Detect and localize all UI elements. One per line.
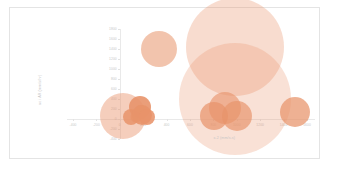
y-tick-label: 800 bbox=[103, 77, 117, 81]
y-tick-mark bbox=[118, 139, 120, 140]
y-tick-mark bbox=[118, 89, 120, 90]
x-tick-mark bbox=[73, 119, 74, 121]
data-point-bubble bbox=[141, 31, 177, 67]
scatter-plot-area: 180016001400120010008006004002000-200-40… bbox=[0, 0, 338, 169]
y-tick-label: 1200 bbox=[103, 57, 117, 61]
x-tick-label: -400 bbox=[64, 123, 82, 127]
y-tick-label: 1600 bbox=[103, 37, 117, 41]
y-tick-mark bbox=[118, 59, 120, 60]
y-tick-label: 600 bbox=[103, 87, 117, 91]
chart-screenshot: 180016001400120010008006004002000-200-40… bbox=[0, 0, 338, 169]
y-tick-mark bbox=[118, 39, 120, 40]
y-tick-mark bbox=[118, 79, 120, 80]
x-tick-label: 400 bbox=[158, 123, 176, 127]
y-axis-title: ac i AR (mm/s/hr) bbox=[38, 75, 42, 105]
data-point-bubble bbox=[280, 97, 310, 127]
y-tick-mark bbox=[118, 49, 120, 50]
data-point-bubble bbox=[139, 109, 155, 125]
x-axis-title: x-2 (mm/s.s) bbox=[213, 136, 235, 140]
y-tick-label: 1000 bbox=[103, 67, 117, 71]
y-tick-label: 1400 bbox=[103, 47, 117, 51]
x-tick-mark bbox=[96, 119, 97, 121]
y-tick-mark bbox=[118, 29, 120, 30]
x-tick-mark bbox=[167, 119, 168, 121]
y-tick-mark bbox=[118, 69, 120, 70]
y-tick-label: 1800 bbox=[103, 27, 117, 31]
data-point-bubble bbox=[222, 101, 252, 131]
